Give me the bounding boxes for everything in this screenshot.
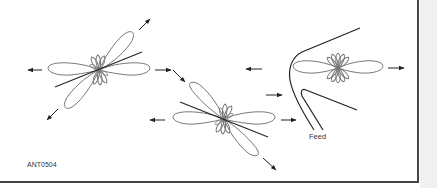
feed-label: Feed [309, 132, 326, 141]
arrow-up-left-icon [173, 70, 185, 82]
reflector-outer-wall [290, 28, 361, 130]
arrow-down-left-icon [47, 109, 58, 120]
radiation-pattern-1 [28, 19, 171, 120]
arrow-down-right-icon [263, 158, 276, 170]
frame-border-bottom [0, 181, 419, 183]
antenna-radiation-patterns-diagram [0, 0, 437, 188]
radiation-pattern-3 [246, 28, 404, 130]
frame-border-right [417, 0, 419, 183]
radiation-pattern-2 [150, 70, 296, 170]
arrow-up-right-icon [139, 19, 150, 30]
figure-id-label: ANT0504 [27, 161, 57, 168]
